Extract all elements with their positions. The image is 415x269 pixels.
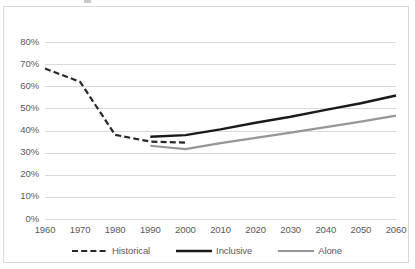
clipped-text-artifact — [84, 0, 91, 3]
x-tick-label: 2050 — [341, 224, 381, 235]
y-tick-label: 80% — [6, 36, 39, 47]
x-tick-label: 2030 — [271, 224, 311, 235]
y-tick-label: 40% — [6, 124, 39, 135]
y-tick-label: 60% — [6, 80, 39, 91]
y-tick-label: 0% — [6, 213, 39, 224]
series-line-inclusive — [150, 96, 396, 137]
x-tick-label: 2040 — [306, 224, 346, 235]
x-tick-label: 1990 — [130, 224, 170, 235]
plot-area: 0%10%20%30%40%50%60%70%80% 1960197019801… — [4, 7, 410, 264]
legend-item-alone[interactable]: Alone — [278, 245, 342, 256]
legend-label: Historical — [112, 245, 150, 256]
legend-item-historical[interactable]: Historical — [72, 245, 150, 256]
x-tick-label: 1980 — [95, 224, 135, 235]
legend-label: Alone — [318, 245, 342, 256]
y-tick-label: 50% — [6, 102, 39, 113]
legend-label: Inclusive — [216, 245, 252, 256]
y-tick-label: 10% — [6, 190, 39, 201]
solid-black-line-icon — [176, 246, 212, 256]
x-tick-label: 2020 — [236, 224, 276, 235]
x-tick-label: 2010 — [201, 224, 241, 235]
series-line-historical — [45, 69, 185, 143]
x-tick-label: 1970 — [60, 224, 100, 235]
y-tick-label: 70% — [6, 58, 39, 69]
x-tick-label: 1960 — [25, 224, 65, 235]
x-tick-label: 2000 — [165, 224, 205, 235]
chart-container: 0%10%20%30%40%50%60%70%80% 1960197019801… — [3, 6, 409, 263]
solid-gray-line-icon — [278, 246, 314, 256]
x-tick-label: 2060 — [376, 224, 415, 235]
dashed-black-line-icon — [72, 246, 108, 256]
legend-item-inclusive[interactable]: Inclusive — [176, 245, 252, 256]
y-tick-label: 20% — [6, 168, 39, 179]
y-tick-label: 30% — [6, 146, 39, 157]
chart-legend: HistoricalInclusiveAlone — [4, 245, 410, 256]
